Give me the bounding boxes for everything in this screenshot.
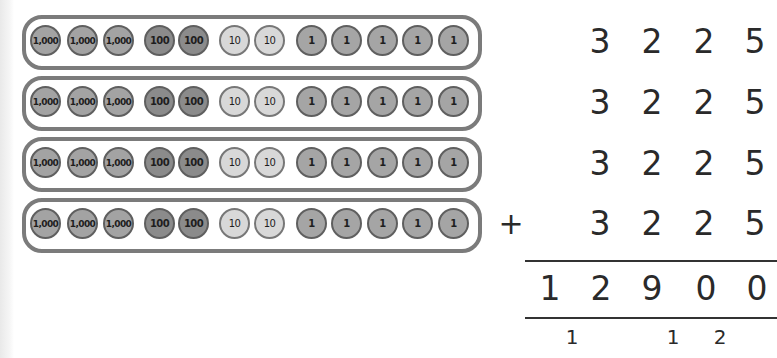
coin-hundred: 100 bbox=[178, 86, 209, 117]
coin-thousand: 1,000 bbox=[67, 25, 98, 56]
coin-thousand: 1,000 bbox=[30, 208, 61, 239]
coin-one: 1 bbox=[402, 25, 433, 56]
coin-row-4: 1,0001,0001,000100100101011111 bbox=[22, 198, 482, 253]
coin-one: 1 bbox=[331, 147, 362, 178]
coin-one: 1 bbox=[367, 86, 398, 117]
coin-one: 1 bbox=[296, 208, 327, 239]
coin-thousand: 1,000 bbox=[103, 86, 134, 117]
coin-one: 1 bbox=[367, 147, 398, 178]
coin-one: 1 bbox=[367, 25, 398, 56]
addend-1-digit: 3 bbox=[585, 24, 615, 60]
addend-2-digit: 5 bbox=[740, 85, 770, 121]
sum-rule-bottom bbox=[525, 317, 777, 319]
coin-thousand: 1,000 bbox=[103, 147, 134, 178]
coin-hundred: 100 bbox=[178, 147, 209, 178]
addend-3-digit: 3 bbox=[585, 146, 615, 182]
coin-ten: 10 bbox=[219, 208, 250, 239]
coin-one: 1 bbox=[438, 25, 469, 56]
coin-thousand: 1,000 bbox=[30, 147, 61, 178]
coin-one: 1 bbox=[438, 86, 469, 117]
coin-ten: 10 bbox=[219, 86, 250, 117]
sum-digit: 9 bbox=[637, 271, 667, 307]
coin-ten: 10 bbox=[254, 208, 285, 239]
coin-hundred: 100 bbox=[144, 25, 175, 56]
coin-hundred: 100 bbox=[144, 86, 175, 117]
addend-1-digit: 5 bbox=[740, 24, 770, 60]
addend-4-digit: 2 bbox=[689, 206, 719, 242]
coin-ten: 10 bbox=[254, 147, 285, 178]
coin-thousand: 1,000 bbox=[67, 147, 98, 178]
coin-one: 1 bbox=[296, 86, 327, 117]
coin-one: 1 bbox=[296, 25, 327, 56]
addend-4-digit: 3 bbox=[585, 206, 615, 242]
coin-one: 1 bbox=[331, 86, 362, 117]
coin-row-2: 1,0001,0001,000100100101011111 bbox=[22, 76, 482, 131]
coin-hundred: 100 bbox=[144, 147, 175, 178]
coin-thousand: 1,000 bbox=[30, 86, 61, 117]
page-edge-shadow bbox=[0, 0, 14, 358]
coin-one: 1 bbox=[331, 25, 362, 56]
addend-3-digit: 2 bbox=[637, 146, 667, 182]
coin-thousand: 1,000 bbox=[67, 86, 98, 117]
sum-rule-top bbox=[525, 260, 777, 262]
coin-thousand: 1,000 bbox=[30, 25, 61, 56]
addend-1-digit: 2 bbox=[637, 24, 667, 60]
carry-digit: 1 bbox=[562, 326, 582, 348]
sum-digit: 2 bbox=[586, 271, 616, 307]
coin-one: 1 bbox=[331, 208, 362, 239]
addend-3-digit: 5 bbox=[740, 146, 770, 182]
addend-1-digit: 2 bbox=[689, 24, 719, 60]
coin-one: 1 bbox=[402, 86, 433, 117]
addend-3-digit: 2 bbox=[689, 146, 719, 182]
coin-hundred: 100 bbox=[144, 208, 175, 239]
coin-row-1: 1,0001,0001,000100100101011111 bbox=[22, 15, 482, 70]
coin-one: 1 bbox=[402, 147, 433, 178]
coin-hundred: 100 bbox=[178, 208, 209, 239]
plus-sign: + bbox=[497, 206, 525, 242]
coin-one: 1 bbox=[402, 208, 433, 239]
coin-one: 1 bbox=[296, 147, 327, 178]
coin-ten: 10 bbox=[219, 147, 250, 178]
addend-2-digit: 3 bbox=[585, 85, 615, 121]
coin-ten: 10 bbox=[219, 25, 250, 56]
sum-digit: 0 bbox=[691, 271, 721, 307]
coin-thousand: 1,000 bbox=[103, 208, 134, 239]
coin-hundred: 100 bbox=[178, 25, 209, 56]
addend-2-digit: 2 bbox=[637, 85, 667, 121]
addend-2-digit: 2 bbox=[689, 85, 719, 121]
addend-4-digit: 2 bbox=[637, 206, 667, 242]
sum-digit: 0 bbox=[742, 271, 772, 307]
coin-thousand: 1,000 bbox=[103, 25, 134, 56]
coin-thousand: 1,000 bbox=[67, 208, 98, 239]
carry-digit: 2 bbox=[710, 326, 730, 348]
coin-one: 1 bbox=[367, 208, 398, 239]
coin-row-3: 1,0001,0001,000100100101011111 bbox=[22, 137, 482, 192]
coin-ten: 10 bbox=[254, 25, 285, 56]
coin-one: 1 bbox=[438, 208, 469, 239]
carry-digit: 1 bbox=[663, 326, 683, 348]
sum-digit: 1 bbox=[535, 271, 565, 307]
addend-4-digit: 5 bbox=[740, 206, 770, 242]
coin-one: 1 bbox=[438, 147, 469, 178]
coin-ten: 10 bbox=[254, 86, 285, 117]
